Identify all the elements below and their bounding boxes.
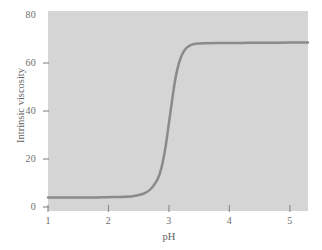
x-tick-label: 4 (221, 216, 237, 226)
chart-plot-svg (0, 0, 322, 250)
y-tick-label: 80 (14, 10, 36, 20)
plot-area-background (48, 11, 308, 211)
x-tick-label: 2 (100, 216, 116, 226)
x-tick-label: 1 (40, 216, 56, 226)
x-tick-label: 3 (161, 216, 177, 226)
y-tick-label: 20 (14, 154, 36, 164)
x-axis-title: pH (149, 231, 189, 242)
y-axis-title: Intrinsic viscosity (15, 56, 26, 156)
chart-figure: 020406080 12345 pH Intrinsic viscosity (0, 0, 322, 250)
y-tick-label: 0 (14, 202, 36, 212)
x-tick-label: 5 (282, 216, 298, 226)
